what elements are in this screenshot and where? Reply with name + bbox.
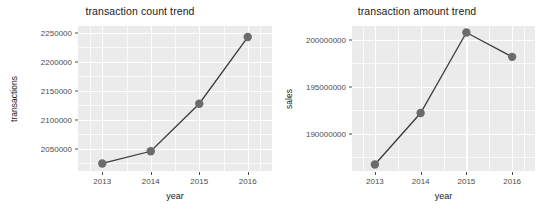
x-axis-tick-label: 2015	[457, 177, 475, 186]
x-axis-tick-mark	[151, 172, 152, 175]
y-axis-tick-label: 2100000	[0, 115, 72, 124]
x-axis-tick-mark	[248, 172, 249, 175]
y-axis-tick-mark	[75, 119, 78, 120]
series-line	[102, 37, 248, 163]
chart-page: transaction count trend transactions yea…	[0, 0, 557, 209]
x-axis-tick-mark	[421, 172, 422, 175]
plot-panel	[352, 26, 535, 171]
y-axis-tick-label: 200000000	[277, 36, 346, 45]
x-axis-tick-label: 2013	[93, 177, 111, 186]
y-axis-tick-mark	[75, 61, 78, 62]
x-axis-tick-label: 2014	[142, 177, 160, 186]
data-point	[462, 28, 470, 36]
y-axis-tick-label: 190000000	[277, 129, 346, 138]
y-axis-tick-mark	[75, 90, 78, 91]
x-axis-tick-label: 2013	[366, 177, 384, 186]
data-point	[371, 160, 379, 168]
data-point	[98, 159, 106, 167]
y-axis-tick-label: 2050000	[0, 144, 72, 153]
x-axis-tick-mark	[375, 172, 376, 175]
x-axis-title: year	[78, 191, 272, 201]
x-axis-tick-mark	[466, 172, 467, 175]
series-line	[375, 33, 512, 165]
data-point	[508, 53, 516, 61]
y-axis-tick-mark	[349, 133, 352, 134]
y-axis-tick-mark	[75, 148, 78, 149]
x-axis-tick-label: 2016	[503, 177, 521, 186]
chart-title: transaction count trend	[0, 5, 280, 17]
data-point	[195, 100, 203, 108]
chart-title: transaction amount trend	[277, 5, 557, 17]
y-axis-tick-label: 2150000	[0, 86, 72, 95]
chart-transaction-amount-trend: transaction amount trend sales year 1900…	[277, 0, 557, 209]
y-axis-tick-mark	[349, 86, 352, 87]
y-axis-tick-label: 2200000	[0, 57, 72, 66]
y-axis-title: sales	[284, 89, 294, 109]
y-axis-tick-label: 195000000	[277, 82, 346, 91]
data-point	[244, 33, 252, 41]
x-axis-tick-mark	[102, 172, 103, 175]
plot-panel	[78, 26, 272, 171]
x-axis-tick-label: 2015	[190, 177, 208, 186]
data-point	[416, 109, 424, 117]
x-axis-tick-mark	[512, 172, 513, 175]
data-series	[352, 26, 535, 171]
data-point	[147, 147, 155, 155]
y-axis-tick-label: 2250000	[0, 28, 72, 37]
y-axis-tick-mark	[75, 32, 78, 33]
x-axis-tick-mark	[199, 172, 200, 175]
y-axis-tick-mark	[349, 40, 352, 41]
x-axis-title: year	[352, 191, 535, 201]
chart-transaction-count-trend: transaction count trend transactions yea…	[0, 0, 280, 209]
data-series	[78, 26, 272, 171]
x-axis-tick-label: 2016	[239, 177, 257, 186]
x-axis-tick-label: 2014	[412, 177, 430, 186]
